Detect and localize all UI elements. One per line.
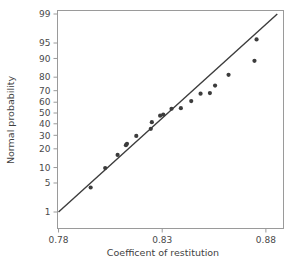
y-tick-label: 70 bbox=[39, 86, 51, 96]
data-point bbox=[213, 84, 217, 88]
x-tick-label: 0.88 bbox=[256, 235, 276, 245]
y-tick-label: 95 bbox=[39, 38, 50, 48]
plot-canvas: 151020304050607080909599 0.780.830.88 Co… bbox=[0, 0, 293, 264]
y-tick-label: 5 bbox=[45, 178, 51, 188]
plot-frame bbox=[58, 11, 284, 229]
data-point bbox=[208, 91, 212, 95]
x-tick-label: 0.83 bbox=[152, 235, 172, 245]
y-tick-label: 90 bbox=[39, 54, 51, 64]
y-tick-label: 40 bbox=[39, 119, 51, 129]
data-point bbox=[252, 59, 256, 63]
y-tick-label: 50 bbox=[39, 108, 51, 118]
data-point bbox=[150, 120, 154, 124]
y-axis-ticks: 151020304050607080909599 bbox=[39, 9, 57, 217]
data-point bbox=[169, 107, 173, 111]
data-point bbox=[198, 92, 202, 96]
y-axis-title: Normal probability bbox=[5, 76, 16, 164]
data-point bbox=[116, 153, 120, 157]
data-point bbox=[125, 142, 129, 146]
y-tick-label: 30 bbox=[39, 131, 51, 141]
data-point bbox=[189, 99, 193, 103]
y-tick-label: 99 bbox=[39, 9, 51, 19]
reference-fit-line bbox=[59, 14, 278, 212]
y-tick-label: 20 bbox=[39, 144, 51, 154]
data-point bbox=[254, 37, 258, 41]
y-tick-label: 80 bbox=[39, 72, 51, 82]
y-tick-label: 60 bbox=[39, 97, 51, 107]
data-point bbox=[89, 185, 93, 189]
data-point bbox=[179, 106, 183, 110]
data-point bbox=[226, 73, 230, 77]
y-tick-label: 1 bbox=[45, 207, 51, 217]
x-tick-label: 0.78 bbox=[49, 235, 69, 245]
data-point bbox=[161, 113, 165, 117]
y-tick-label: 10 bbox=[39, 163, 51, 173]
data-points bbox=[89, 37, 259, 189]
normal-probability-plot: 151020304050607080909599 0.780.830.88 Co… bbox=[0, 0, 293, 264]
x-axis-ticks: 0.780.830.88 bbox=[49, 229, 277, 245]
data-point bbox=[103, 166, 107, 170]
data-point bbox=[134, 134, 138, 138]
fit-line bbox=[59, 14, 278, 212]
x-axis-title: Coefficent of restitution bbox=[107, 247, 219, 258]
data-point bbox=[149, 127, 153, 131]
